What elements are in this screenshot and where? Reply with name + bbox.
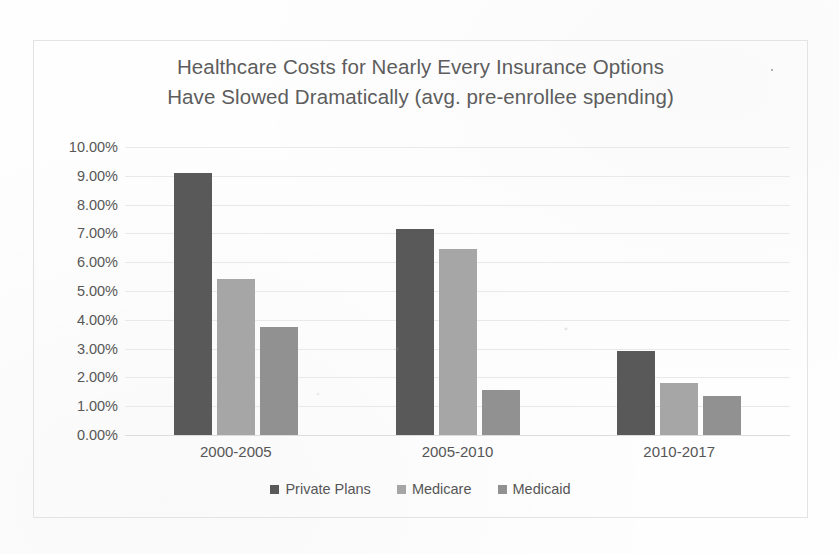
bar[interactable]	[617, 351, 655, 435]
y-axis-tick-label: 9.00%	[36, 168, 118, 184]
bar[interactable]	[439, 249, 477, 435]
bar[interactable]	[660, 383, 698, 435]
plot-area	[125, 147, 790, 435]
legend-item[interactable]: Medicare	[397, 481, 472, 497]
bar[interactable]	[174, 173, 212, 435]
bar[interactable]	[217, 279, 255, 435]
y-axis-tick-label: 3.00%	[36, 341, 118, 357]
chart-title-line-2: Have Slowed Dramatically (avg. pre-enrol…	[33, 82, 808, 112]
bar[interactable]	[260, 327, 298, 435]
bar-group	[617, 147, 741, 435]
y-axis-tick-label: 4.00%	[36, 312, 118, 328]
chart-legend: Private PlansMedicareMedicaid	[33, 481, 808, 497]
legend-item[interactable]: Private Plans	[270, 481, 370, 497]
chart-title-line-1: Healthcare Costs for Nearly Every Insura…	[33, 52, 808, 82]
y-axis-tick-label: 1.00%	[36, 398, 118, 414]
y-axis-tick-label: 7.00%	[36, 225, 118, 241]
x-axis-tick-label: 2000-2005	[200, 443, 272, 460]
x-axis: 2000-20052005-20102010-2017	[125, 443, 790, 467]
legend-item-label: Medicaid	[513, 481, 571, 497]
y-axis-tick-label: 10.00%	[36, 139, 118, 155]
x-axis-tick-label: 2005-2010	[422, 443, 494, 460]
x-axis-tick-label: 2010-2017	[643, 443, 715, 460]
bar-group	[174, 147, 298, 435]
y-axis-tick-label: 5.00%	[36, 283, 118, 299]
y-axis-tick-label: 2.00%	[36, 369, 118, 385]
bar[interactable]	[396, 229, 434, 435]
legend-swatch-icon	[397, 485, 406, 494]
legend-item-label: Private Plans	[285, 481, 370, 497]
legend-item-label: Medicare	[412, 481, 472, 497]
y-axis-tick-label: 0.00%	[36, 427, 118, 443]
legend-swatch-icon	[270, 485, 279, 494]
chart-title: Healthcare Costs for Nearly Every Insura…	[33, 52, 808, 112]
bar-group	[396, 147, 520, 435]
bar[interactable]	[482, 390, 520, 435]
legend-item[interactable]: Medicaid	[498, 481, 571, 497]
y-axis-tick-label: 8.00%	[36, 197, 118, 213]
y-axis: 10.00%9.00%8.00%7.00%6.00%5.00%4.00%3.00…	[36, 147, 118, 435]
axis-baseline	[125, 435, 790, 436]
bar[interactable]	[703, 396, 741, 435]
y-axis-tick-label: 6.00%	[36, 254, 118, 270]
legend-swatch-icon	[498, 485, 507, 494]
